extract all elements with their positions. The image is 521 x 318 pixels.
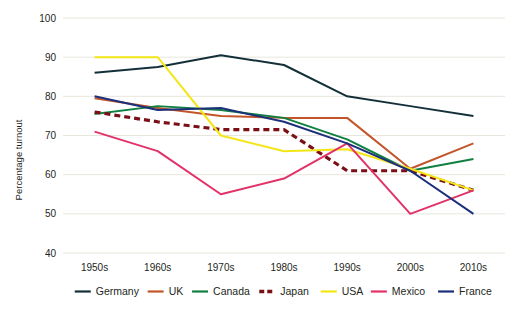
x-tick-label: 1980s (270, 262, 297, 273)
line-chart: 100908070605040 1950s1960s1970s1980s1990… (0, 0, 521, 318)
y-tick-label: 90 (45, 52, 57, 63)
legend-label: USA (342, 285, 364, 297)
y-tick-label: 70 (45, 130, 57, 141)
y-tick-label: 60 (45, 169, 57, 180)
legend-item-germany[interactable]: Germany (75, 285, 140, 297)
x-tick-label: 1950s (81, 262, 108, 273)
legend-item-usa[interactable]: USA (321, 285, 364, 297)
chart-canvas: 100908070605040 1950s1960s1970s1980s1990… (0, 0, 521, 318)
legend-item-japan[interactable]: Japan (259, 285, 309, 297)
legend-label: Canada (213, 285, 250, 297)
legend-label: France (459, 285, 492, 297)
legend-item-uk[interactable]: UK (148, 285, 184, 297)
x-axis-tick-labels: 1950s1960s1970s1980s1990s2000s2010s (81, 262, 487, 273)
series-line-canada (95, 106, 474, 171)
x-tick-label: 1990s (334, 262, 361, 273)
y-tick-label: 80 (45, 91, 57, 102)
legend-item-canada[interactable]: Canada (192, 285, 250, 297)
series-line-usa (95, 57, 474, 190)
y-axis-tick-labels: 100908070605040 (39, 13, 56, 259)
x-tick-label: 1960s (144, 262, 171, 273)
y-tick-label: 100 (39, 13, 56, 24)
x-tick-label: 2000s (397, 262, 424, 273)
legend-label: Mexico (392, 285, 425, 297)
chart-legend: GermanyUKCanadaJapanUSAMexicoFrance (75, 285, 492, 297)
y-tick-label: 40 (45, 248, 57, 259)
x-tick-label: 1970s (207, 262, 234, 273)
y-axis-title: Percentage turnout (13, 119, 24, 200)
legend-label: UK (169, 285, 184, 297)
y-tick-label: 50 (45, 208, 57, 219)
legend-item-france[interactable]: France (438, 285, 492, 297)
series-lines (95, 55, 474, 214)
legend-label: Germany (96, 285, 140, 297)
series-line-france (95, 96, 474, 213)
x-tick-label: 2010s (460, 262, 487, 273)
legend-item-mexico[interactable]: Mexico (371, 285, 425, 297)
legend-label: Japan (280, 285, 309, 297)
gridlines (63, 18, 505, 253)
